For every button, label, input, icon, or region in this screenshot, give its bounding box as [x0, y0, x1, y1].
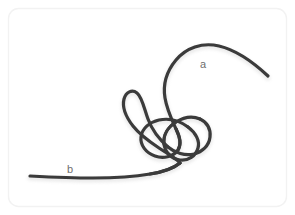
rope-illustration	[0, 0, 295, 215]
label-a: a	[200, 59, 206, 70]
label-b: b	[67, 164, 73, 175]
rope-knot-figure: a b	[0, 0, 295, 215]
